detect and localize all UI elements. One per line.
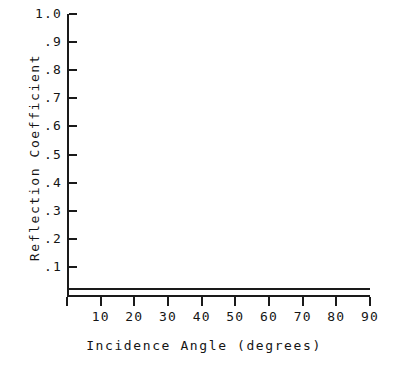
y-axis-tick [69,238,77,240]
x-axis-tick-label: 90 [350,310,390,323]
y-axis-tick-label: .6 [18,119,62,132]
x-axis-tick [268,297,270,306]
y-axis-tick-label: .4 [18,176,62,189]
chart-figure: Reflection Coefficient .1.2.3.4.5.6.7.8.… [0,0,408,371]
y-axis-tick-label: .3 [18,204,62,217]
y-axis-tick [69,13,77,15]
y-axis-tick [69,97,77,99]
x-axis-tick [369,297,371,306]
y-axis-tick-label: .9 [18,35,62,48]
x-axis-tick [234,297,236,306]
y-axis-tick [69,266,77,268]
y-axis-tick-label: .2 [18,232,62,245]
series-segment [235,288,269,290]
series-segment [336,288,370,290]
series-segment [269,288,303,290]
y-axis-tick-label: .7 [18,91,62,104]
series-segment [168,288,202,290]
x-axis-tick [335,297,337,306]
y-axis-tick [69,154,77,156]
series-segment [101,288,135,290]
y-axis-tick [69,125,77,127]
y-axis-tick [69,210,77,212]
series-segment [202,288,236,290]
x-axis-tick [201,297,203,306]
series-segment [303,288,337,290]
x-axis-line [67,295,370,297]
x-axis-tick [302,297,304,306]
y-axis-tick-label: 1.0 [18,7,62,20]
x-axis-title: Incidence Angle (degrees) [0,338,408,353]
y-axis-tick-label: .5 [18,148,62,161]
y-axis-tick-label: .8 [18,63,62,76]
series-segment [134,288,168,290]
y-axis-tick [69,69,77,71]
series-segment [67,288,101,290]
y-axis-tick [69,41,77,43]
y-axis-tick [69,182,77,184]
x-axis-tick [100,297,102,306]
x-axis-tick [167,297,169,306]
x-axis-tick [133,297,135,306]
x-axis-tick [66,297,68,306]
y-axis-tick-label: .1 [18,260,62,273]
y-tick-label-column: .1.2.3.4.5.6.7.8.91.0 [14,0,62,371]
